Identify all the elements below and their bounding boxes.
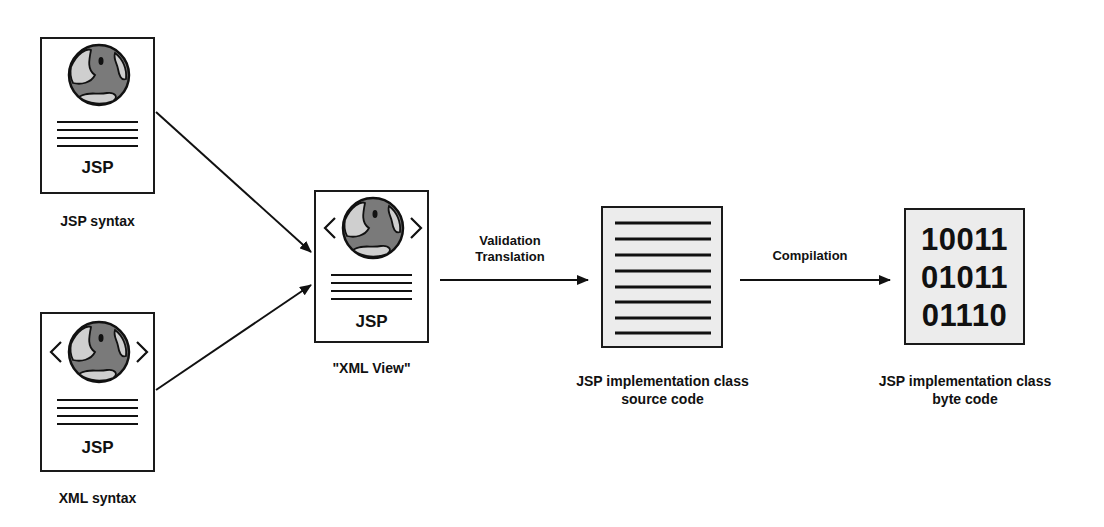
byte-code-caption: JSP implementation class byte code <box>840 372 1090 408</box>
validation-text: Validation <box>445 233 575 249</box>
compilation-label: Compilation <box>750 248 870 264</box>
jsp-icon-label: JSP <box>42 438 153 458</box>
byte-code-document: 10011 01011 01110 <box>904 208 1025 345</box>
source-code-caption: JSP implementation class source code <box>540 372 785 408</box>
xml-view-caption: "XML View" <box>314 359 429 377</box>
binary-line-2: 01011 <box>906 259 1023 296</box>
arrow-xml-to-xmlview <box>156 285 311 390</box>
jsp-icon-label: JSP <box>42 158 153 178</box>
jsp-icon-label: JSP <box>316 312 427 332</box>
xml-view-document: JSP <box>314 190 429 343</box>
binary-line-1: 10011 <box>906 221 1023 258</box>
arrow-jsp-to-xmlview <box>156 112 311 252</box>
xml-syntax-caption: XML syntax <box>40 489 155 507</box>
binary-line-3: 01110 <box>906 297 1023 334</box>
validation-translation-label: Validation Translation <box>445 233 575 265</box>
translation-text: Translation <box>445 249 575 265</box>
source-lines-icon <box>603 208 721 346</box>
xml-syntax-document: JSP <box>40 312 155 472</box>
jsp-syntax-caption: JSP syntax <box>40 212 155 230</box>
text-lines-icon <box>331 275 412 299</box>
text-lines-icon <box>57 122 138 146</box>
jsp-syntax-document: JSP <box>40 37 155 194</box>
text-lines-icon <box>57 400 138 424</box>
source-code-document <box>601 206 723 348</box>
